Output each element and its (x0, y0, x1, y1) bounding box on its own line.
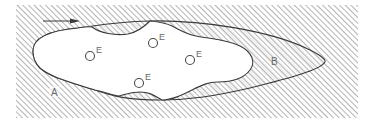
diagram-canvas: E E E E A B (0, 0, 373, 124)
region-a-label: A (51, 87, 58, 98)
marker-label: E (96, 45, 102, 55)
region-b-label: B (271, 56, 278, 67)
marker-label: E (145, 72, 151, 82)
marker-label: E (159, 32, 165, 42)
marker-label: E (196, 49, 202, 59)
